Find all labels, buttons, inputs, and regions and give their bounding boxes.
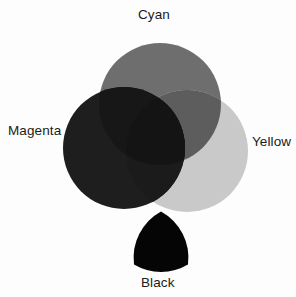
label-magenta: Magenta <box>8 124 61 138</box>
label-black: Black <box>141 276 175 290</box>
label-yellow: Yellow <box>252 135 291 149</box>
cmyk-venn-diagram: Cyan Magenta Yellow Black <box>0 0 296 297</box>
shape-black-reuleaux-triangle <box>134 212 189 272</box>
label-cyan: Cyan <box>138 8 170 22</box>
